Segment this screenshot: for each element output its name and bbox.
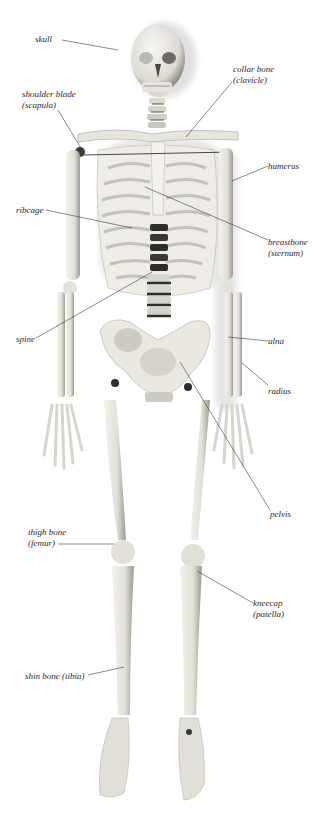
leader-line-clavicle: [186, 82, 232, 137]
pelvis-shape: [100, 320, 210, 402]
label-text: skull: [35, 34, 52, 45]
label-pelvis: pelvis: [270, 509, 291, 520]
label-text: kneecap: [253, 598, 284, 609]
label-scapula: shoulder blade(scapula): [22, 89, 76, 111]
leader-line-skull: [62, 40, 118, 50]
leader-line-humerus: [232, 166, 268, 181]
ribcage-shape: [84, 142, 232, 296]
spine-vertebrae: [147, 224, 171, 316]
label-humerus: humerus: [268, 161, 299, 172]
label-radius: radius: [268, 386, 291, 397]
leader-line-scapula: [58, 110, 82, 150]
label-ulna: ulna: [268, 336, 284, 347]
label-text: shin bone (tibia): [25, 671, 85, 682]
label-text: spine: [16, 334, 35, 345]
label-clavicle: collar bone(clavicle): [233, 64, 274, 86]
label-ribcage: ribcage: [16, 205, 44, 216]
label-text: pelvis: [270, 509, 291, 520]
label-subtext: (femur): [28, 538, 66, 549]
leader-line-patella: [197, 571, 253, 603]
neck-vertebrae: [147, 98, 167, 128]
label-text: ulna: [268, 336, 284, 347]
label-skull: skull: [35, 34, 52, 45]
label-patella: kneecap(patella): [253, 598, 284, 620]
label-subtext: (clavicle): [233, 75, 274, 86]
label-text: breastbone: [268, 237, 308, 248]
label-subtext: (sternum): [268, 248, 308, 259]
label-subtext: (scapula): [22, 100, 76, 111]
label-subtext: (patella): [253, 609, 284, 620]
label-text: ribcage: [16, 205, 44, 216]
label-text: radius: [268, 386, 291, 397]
skeleton-illustration: [0, 0, 318, 836]
label-tibia: shin bone (tibia): [25, 671, 85, 682]
label-femur: thigh bone(femur): [28, 527, 66, 549]
foot-bones: [99, 718, 204, 800]
leader-line-radius: [242, 363, 268, 385]
label-text: collar bone: [233, 64, 274, 75]
label-text: thigh bone: [28, 527, 66, 538]
label-spine: spine: [16, 334, 35, 345]
label-text: humerus: [268, 161, 299, 172]
label-sternum: breastbone(sternum): [268, 237, 308, 259]
hand-bones: [44, 405, 252, 468]
label-text: shoulder blade: [22, 89, 76, 100]
skeleton-diagram: skullshoulder blade(scapula)collar bone(…: [0, 0, 318, 836]
